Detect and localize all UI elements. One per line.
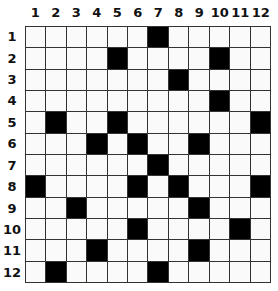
grid-cell[interactable] <box>169 262 188 282</box>
grid-cell[interactable] <box>148 240 167 260</box>
grid-cell[interactable] <box>148 134 167 154</box>
grid-cell[interactable] <box>87 27 106 47</box>
grid-cell[interactable] <box>230 70 249 90</box>
grid-cell[interactable] <box>189 219 208 239</box>
grid-cell[interactable] <box>26 262 45 282</box>
grid-cell[interactable] <box>169 91 188 111</box>
grid-cell[interactable] <box>108 155 127 175</box>
grid-cell[interactable] <box>46 48 65 68</box>
grid-cell[interactable] <box>251 219 270 239</box>
grid-cell[interactable] <box>230 176 249 196</box>
grid-cell[interactable] <box>128 91 147 111</box>
grid-cell[interactable] <box>108 70 127 90</box>
grid-cell[interactable] <box>189 262 208 282</box>
grid-cell[interactable] <box>210 27 229 47</box>
grid-cell[interactable] <box>108 219 127 239</box>
grid-cell[interactable] <box>67 219 86 239</box>
grid-cell[interactable] <box>210 70 229 90</box>
grid-cell[interactable] <box>46 176 65 196</box>
grid-cell[interactable] <box>46 198 65 218</box>
grid-cell[interactable] <box>148 219 167 239</box>
grid-cell[interactable] <box>169 219 188 239</box>
grid-cell[interactable] <box>189 176 208 196</box>
grid-cell[interactable] <box>46 219 65 239</box>
grid-cell[interactable] <box>108 27 127 47</box>
grid-cell[interactable] <box>87 48 106 68</box>
grid-cell[interactable] <box>230 134 249 154</box>
grid-cell[interactable] <box>189 155 208 175</box>
grid-cell[interactable] <box>26 91 45 111</box>
grid-cell[interactable] <box>46 134 65 154</box>
grid-cell[interactable] <box>46 27 65 47</box>
grid-cell[interactable] <box>67 70 86 90</box>
grid-cell[interactable] <box>26 48 45 68</box>
grid-cell[interactable] <box>251 27 270 47</box>
grid-cell[interactable] <box>251 70 270 90</box>
grid-cell[interactable] <box>148 176 167 196</box>
grid-cell[interactable] <box>230 48 249 68</box>
grid-cell[interactable] <box>230 112 249 132</box>
grid-cell[interactable] <box>189 91 208 111</box>
grid-cell[interactable] <box>67 112 86 132</box>
grid-cell[interactable] <box>108 262 127 282</box>
grid-cell[interactable] <box>169 134 188 154</box>
grid-cell[interactable] <box>87 262 106 282</box>
grid-cell[interactable] <box>230 155 249 175</box>
grid-cell[interactable] <box>230 262 249 282</box>
grid-cell[interactable] <box>67 134 86 154</box>
grid-cell[interactable] <box>169 27 188 47</box>
grid-cell[interactable] <box>189 112 208 132</box>
grid-cell[interactable] <box>128 240 147 260</box>
grid-cell[interactable] <box>26 112 45 132</box>
grid-cell[interactable] <box>251 198 270 218</box>
grid-cell[interactable] <box>128 27 147 47</box>
grid-cell[interactable] <box>128 155 147 175</box>
grid-cell[interactable] <box>87 176 106 196</box>
grid-cell[interactable] <box>128 262 147 282</box>
grid-cell[interactable] <box>46 240 65 260</box>
grid-cell[interactable] <box>230 91 249 111</box>
grid-cell[interactable] <box>26 155 45 175</box>
grid-cell[interactable] <box>210 198 229 218</box>
grid-cell[interactable] <box>108 198 127 218</box>
grid-cell[interactable] <box>67 27 86 47</box>
grid-cell[interactable] <box>46 155 65 175</box>
grid-cell[interactable] <box>230 240 249 260</box>
grid-cell[interactable] <box>169 240 188 260</box>
grid-cell[interactable] <box>210 262 229 282</box>
grid-cell[interactable] <box>251 134 270 154</box>
grid-cell[interactable] <box>251 155 270 175</box>
grid-cell[interactable] <box>67 240 86 260</box>
grid-cell[interactable] <box>108 91 127 111</box>
grid-cell[interactable] <box>26 198 45 218</box>
grid-cell[interactable] <box>26 70 45 90</box>
grid-cell[interactable] <box>67 262 86 282</box>
grid-cell[interactable] <box>210 155 229 175</box>
grid-cell[interactable] <box>148 91 167 111</box>
grid-cell[interactable] <box>251 91 270 111</box>
grid-cell[interactable] <box>230 27 249 47</box>
grid-cell[interactable] <box>169 48 188 68</box>
grid-cell[interactable] <box>67 48 86 68</box>
grid-cell[interactable] <box>67 176 86 196</box>
grid-cell[interactable] <box>251 262 270 282</box>
grid-cell[interactable] <box>189 48 208 68</box>
grid-cell[interactable] <box>87 155 106 175</box>
grid-cell[interactable] <box>108 176 127 196</box>
grid-cell[interactable] <box>26 27 45 47</box>
grid-cell[interactable] <box>189 27 208 47</box>
grid-cell[interactable] <box>108 134 127 154</box>
grid-cell[interactable] <box>26 134 45 154</box>
grid-cell[interactable] <box>87 198 106 218</box>
grid-cell[interactable] <box>148 198 167 218</box>
grid-cell[interactable] <box>169 155 188 175</box>
grid-cell[interactable] <box>67 155 86 175</box>
grid-cell[interactable] <box>169 198 188 218</box>
grid-cell[interactable] <box>148 70 167 90</box>
grid-cell[interactable] <box>108 240 127 260</box>
grid-cell[interactable] <box>251 240 270 260</box>
grid-cell[interactable] <box>148 48 167 68</box>
grid-cell[interactable] <box>87 219 106 239</box>
grid-cell[interactable] <box>169 112 188 132</box>
grid-cell[interactable] <box>251 48 270 68</box>
